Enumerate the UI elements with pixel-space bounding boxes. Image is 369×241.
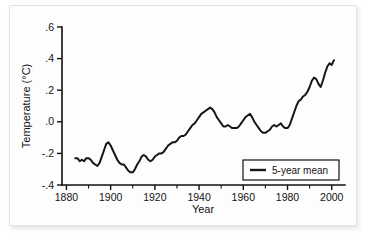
y-tick-label: -.2	[42, 147, 54, 159]
x-tick-group: 1880190019201940196019802000	[55, 185, 344, 203]
series-group	[75, 60, 334, 172]
x-tick-label: 1900	[99, 191, 123, 203]
x-tick-label: 2000	[320, 191, 344, 203]
temperature-anomaly-chart: -.4-.2.0.2.4.6 1880190019201940196019802…	[0, 0, 369, 241]
y-tick-label: .2	[45, 84, 54, 96]
figure-root: -.4-.2.0.2.4.6 1880190019201940196019802…	[0, 0, 369, 241]
y-tick-label: .4	[45, 52, 54, 64]
y-axis-title: Temperature (°C)	[20, 64, 32, 148]
y-tick-label: -.4	[42, 179, 54, 191]
y-tick-label: .0	[45, 115, 54, 127]
x-tick-label: 1980	[276, 191, 300, 203]
x-tick-label: 1940	[187, 191, 211, 203]
legend-label-5-year-mean: 5-year mean	[272, 165, 328, 176]
legend: 5-year mean	[243, 160, 339, 180]
series-line-5-year-mean	[75, 60, 334, 172]
y-tick-label: .6	[45, 21, 54, 33]
x-tick-label: 1920	[143, 191, 167, 203]
x-axis-title: Year	[192, 203, 215, 215]
x-tick-label: 1880	[55, 191, 79, 203]
y-tick-group: -.4-.2.0.2.4.6	[42, 21, 62, 191]
x-tick-label: 1960	[232, 191, 256, 203]
